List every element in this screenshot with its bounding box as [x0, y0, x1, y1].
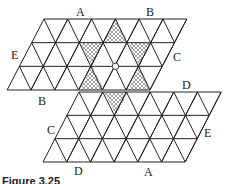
grid-line: [55, 66, 67, 90]
label-B-lower: B: [38, 94, 46, 108]
grid-line: [186, 115, 198, 138]
label-D-bottom: D: [74, 164, 83, 178]
grid-line: [115, 66, 127, 90]
grid-line: [150, 139, 162, 162]
grid-line: [162, 115, 174, 138]
upper-parallelogram-grid: [7, 19, 187, 90]
grid-line: [67, 66, 79, 90]
grid-line: [209, 92, 221, 115]
grid-line: [56, 43, 68, 67]
label-A-bottom: A: [144, 165, 153, 179]
grid-line: [198, 92, 210, 115]
grid-line: [102, 139, 114, 162]
triangular-lattice-diagram: ABECDBCEDA: [0, 0, 229, 184]
grid-line: [175, 19, 187, 43]
grid-line: [150, 92, 162, 115]
label-C-lower: C: [47, 123, 55, 137]
grid-line: [163, 19, 175, 43]
grid-line: [186, 92, 198, 115]
grid-line: [185, 139, 197, 162]
grid-line: [79, 19, 91, 43]
grid-line: [126, 139, 138, 162]
label-E-left: E: [11, 48, 18, 62]
grid-line: [67, 43, 79, 67]
grid-line: [102, 115, 114, 138]
label-A-top: A: [76, 5, 85, 19]
grid-line: [114, 115, 126, 138]
grid-line: [138, 92, 150, 115]
label-D-upper: D: [182, 78, 191, 92]
grid-line: [32, 43, 44, 67]
grid-line: [19, 66, 31, 90]
grid-line: [162, 92, 174, 115]
grid-line: [150, 66, 162, 90]
grid-line: [56, 19, 68, 43]
grid-line: [67, 115, 79, 138]
grid-line: [31, 66, 43, 90]
grid-line: [44, 19, 56, 43]
center-point-marker: [112, 63, 118, 69]
grid-line: [103, 43, 115, 67]
grid-line: [138, 139, 150, 162]
shaded-triangle: [80, 43, 104, 67]
grid-line: [174, 115, 186, 138]
grid-line: [174, 92, 186, 115]
grid-line: [151, 43, 163, 67]
shaded-triangle: [128, 66, 151, 90]
grid-line: [162, 139, 174, 162]
grid-line: [55, 139, 67, 162]
grid-line: [92, 19, 104, 43]
grid-line: [114, 139, 126, 162]
grid-line: [151, 19, 163, 43]
grid-line: [79, 139, 91, 162]
label-B-top: B: [146, 5, 154, 19]
figure-caption: Figure 3.25: [2, 175, 60, 184]
grid-line: [91, 92, 103, 115]
grid-line: [150, 115, 162, 138]
grid-line: [127, 19, 139, 43]
shaded-triangle: [128, 43, 151, 67]
grid-line: [43, 66, 55, 90]
grid-line: [68, 19, 80, 43]
grid-line: [90, 139, 102, 162]
grid-line: [102, 66, 114, 90]
grid-line: [126, 92, 138, 115]
grid-line: [174, 139, 186, 162]
grid-line: [139, 19, 151, 43]
grid-line: [79, 115, 91, 138]
lower-parallelogram-grid: [43, 92, 221, 162]
grid-line: [67, 139, 79, 162]
grid-line: [138, 115, 150, 138]
label-E-lower: E: [204, 126, 211, 140]
label-C-right: C: [173, 50, 181, 64]
grid-line: [91, 115, 103, 138]
shaded-triangle: [104, 19, 128, 43]
grid-line: [79, 92, 91, 115]
grid-line: [126, 115, 138, 138]
grid-line: [43, 43, 55, 67]
